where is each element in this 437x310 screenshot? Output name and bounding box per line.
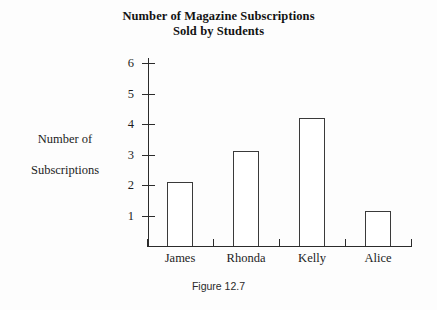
y-axis-line: [148, 58, 149, 246]
y-axis-tick-label: 4: [112, 118, 134, 131]
y-axis-tick-label: 3: [112, 149, 134, 162]
figure-caption: Figure 12.7: [0, 280, 437, 292]
figure-container: Number of Magazine Subscriptions Sold by…: [0, 0, 437, 310]
plot-area: 654321JamesRhondaKellyAlice: [0, 0, 437, 310]
bar: [233, 151, 259, 246]
y-axis-tick: [142, 124, 155, 125]
bar: [299, 118, 325, 246]
x-axis-tick: [411, 239, 412, 247]
y-axis-tick-label: 2: [112, 179, 134, 192]
x-axis-line: [148, 246, 412, 247]
bar: [167, 182, 193, 246]
y-axis-tick: [142, 155, 155, 156]
x-axis-tick: [279, 239, 280, 247]
y-axis-tick-label: 5: [112, 88, 134, 101]
y-axis-tick: [142, 185, 155, 186]
y-axis-tick: [142, 216, 155, 217]
y-axis-tick: [142, 63, 155, 64]
y-axis-tick: [142, 94, 155, 95]
x-axis-category-label: Alice: [335, 251, 421, 266]
y-axis-tick-label: 6: [112, 57, 134, 70]
x-axis-tick: [345, 239, 346, 247]
y-axis-tick-label: 1: [112, 210, 134, 223]
bar: [365, 211, 391, 246]
x-axis-tick: [147, 239, 148, 247]
x-axis-tick: [213, 239, 214, 247]
